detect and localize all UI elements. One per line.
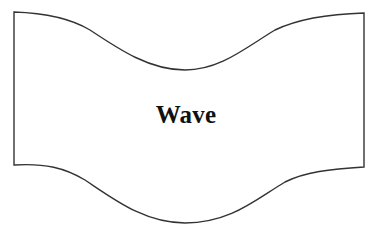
wave-label: Wave <box>0 101 372 129</box>
